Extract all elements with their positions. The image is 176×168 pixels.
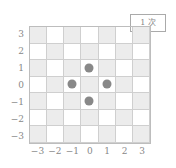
grid-cell	[81, 77, 98, 94]
point-marker	[102, 80, 111, 89]
grid-cell	[30, 60, 47, 77]
grid-cell	[81, 27, 98, 44]
y-tick-label: 0	[6, 80, 24, 90]
grid-cell	[116, 93, 133, 110]
grid-board	[29, 26, 151, 144]
grid-cell	[99, 126, 116, 143]
y-tick-label: 1	[6, 63, 24, 73]
grid-cell	[81, 44, 98, 61]
x-tick-label: 2	[116, 146, 133, 156]
x-tick-label: 3	[134, 146, 151, 156]
point-marker	[85, 97, 94, 106]
grid-cell	[81, 60, 98, 77]
grid-cell	[47, 27, 64, 44]
grid-cell	[64, 60, 81, 77]
grid-cell	[116, 60, 133, 77]
x-tick-label: −3	[29, 146, 46, 156]
grid-cell	[30, 110, 47, 127]
grid-cell	[30, 93, 47, 110]
grid-cell	[116, 110, 133, 127]
point-marker	[68, 80, 77, 89]
grid-cell	[47, 93, 64, 110]
grid-cell	[47, 44, 64, 61]
y-tick-label: −3	[6, 131, 24, 141]
grid-cell	[133, 60, 150, 77]
y-tick-label: 2	[6, 46, 24, 56]
grid-cell	[30, 27, 47, 44]
grid-cell	[64, 110, 81, 127]
grid-cell	[64, 126, 81, 143]
x-tick-label: −1	[64, 146, 81, 156]
grid-cell	[30, 77, 47, 94]
grid-cell	[64, 77, 81, 94]
grid-cell	[47, 110, 64, 127]
y-tick-label: −1	[6, 97, 24, 107]
y-tick-label: −2	[6, 114, 24, 124]
grid-cell	[99, 93, 116, 110]
grid-cell	[99, 27, 116, 44]
grid-cell	[47, 77, 64, 94]
grid-cell	[81, 110, 98, 127]
grid-cell	[81, 93, 98, 110]
grid-cell	[116, 126, 133, 143]
y-tick-label: 3	[6, 29, 24, 39]
grid-cell	[99, 110, 116, 127]
grid-cell	[116, 44, 133, 61]
x-tick-label: 0	[81, 146, 98, 156]
grid-cell	[30, 44, 47, 61]
grid-cell	[30, 126, 47, 143]
grid-cell	[47, 60, 64, 77]
x-tick-label: −2	[46, 146, 63, 156]
grid-cell	[64, 27, 81, 44]
point-marker	[85, 63, 94, 72]
x-tick-label: 1	[99, 146, 116, 156]
grid-cell	[133, 44, 150, 61]
grid-cell	[99, 60, 116, 77]
grid-cell	[64, 44, 81, 61]
grid-cell	[64, 93, 81, 110]
grid-cell	[47, 126, 64, 143]
grid-cell	[133, 27, 150, 44]
grid-cell	[133, 110, 150, 127]
grid-cell	[133, 77, 150, 94]
grid-cell	[116, 77, 133, 94]
grid-cell	[99, 44, 116, 61]
grid-cell	[81, 126, 98, 143]
grid-cell	[116, 27, 133, 44]
grid-cell	[133, 126, 150, 143]
grid-cell	[99, 77, 116, 94]
grid-cell	[133, 93, 150, 110]
